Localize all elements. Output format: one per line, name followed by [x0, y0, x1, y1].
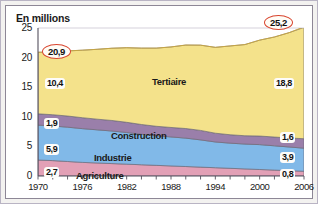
value-construction-end: 1,6 [280, 132, 295, 143]
value-industrie-start: 5,9 [44, 144, 59, 155]
badge-total-end: 25,2 [264, 15, 293, 30]
series-label-agriculture: Agriculture [76, 170, 123, 181]
y-tick-label-10: 10 [12, 111, 32, 122]
y-tick-label-15: 15 [12, 81, 32, 92]
value-industrie-end: 3,9 [280, 152, 295, 163]
chart-inner-panel: En millions 0510152025 19701976198219881… [5, 5, 313, 199]
value-construction-start: 1,9 [44, 118, 59, 129]
x-tick-label-1994: 1994 [198, 181, 232, 192]
y-tick-label-25: 25 [12, 22, 32, 33]
value-tertiaire-start: 10,4 [45, 78, 65, 89]
series-label-industrie: Industrie [94, 152, 131, 163]
series-label-construction: Construction [111, 130, 167, 141]
x-tick-label-2000: 2000 [243, 181, 277, 192]
y-tick-label-5: 5 [12, 140, 32, 151]
value-agriculture-end: 0,8 [280, 169, 295, 180]
y-tick-label-20: 20 [12, 52, 32, 63]
series-label-tertiaire: Tertiaire [152, 76, 186, 87]
value-agriculture-start: 2,7 [44, 167, 59, 178]
x-tick-label-1982: 1982 [110, 181, 144, 192]
badge-total-start: 20,9 [42, 44, 71, 59]
y-tick-label-0: 0 [12, 170, 32, 181]
x-tick-label-1970: 1970 [21, 181, 55, 192]
x-tick-label-1988: 1988 [154, 181, 188, 192]
x-tick-label-2006: 2006 [287, 181, 318, 192]
value-tertiaire-end: 18,8 [274, 78, 294, 89]
x-tick-label-1976: 1976 [65, 181, 99, 192]
chart-frame: En millions 0510152025 19701976198219881… [0, 0, 318, 204]
